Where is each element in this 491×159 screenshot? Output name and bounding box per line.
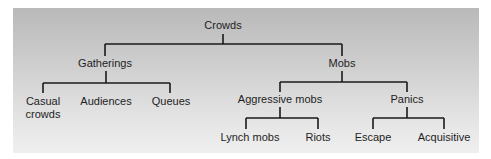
node-casual-crowds: Casual crowds: [26, 95, 61, 121]
node-escape: Escape: [355, 131, 392, 144]
node-casual-crowds-line2: crowds: [26, 108, 61, 121]
node-acquisitive: Acquisitive: [418, 131, 471, 144]
node-audiences: Audiences: [80, 95, 131, 108]
node-casual-crowds-line1: Casual: [26, 95, 61, 108]
node-panics: Panics: [390, 93, 423, 106]
node-gatherings: Gatherings: [78, 57, 132, 70]
node-riots: Riots: [305, 131, 330, 144]
node-crowds: Crowds: [204, 19, 241, 32]
node-aggressive-mobs: Aggressive mobs: [238, 93, 322, 106]
node-queues: Queues: [152, 95, 191, 108]
node-lynch-mobs: Lynch mobs: [221, 131, 280, 144]
node-mobs: Mobs: [329, 57, 356, 70]
